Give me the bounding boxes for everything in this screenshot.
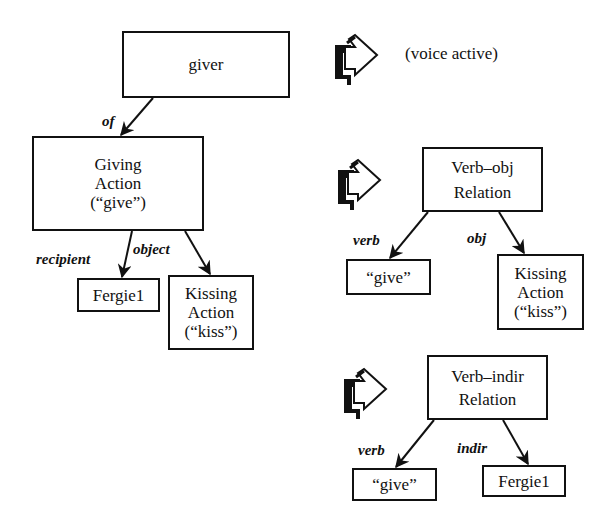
node-kissing-action-line-1: Kissing — [185, 284, 237, 303]
semantic-network-diagram: giver of Giving Action (“give”) recipien… — [0, 0, 613, 524]
hand-pointer-arrow-icon — [342, 367, 390, 421]
node-kissing-obj-line-1: Kissing — [515, 264, 567, 283]
node-fergie1-label: Fergie1 — [93, 286, 145, 305]
node-fergie1-indir: Fergie1 — [482, 465, 566, 497]
node-kissing-obj-line-2: Action — [517, 283, 563, 302]
edge-obj-arrow — [499, 212, 524, 253]
hand-pointer-arrow-icon — [333, 33, 381, 87]
node-giving-action-line-3: (“give”) — [90, 193, 146, 212]
node-verb-obj-line-2: Relation — [454, 183, 512, 202]
node-fergie1: Fergie1 — [77, 278, 160, 312]
node-verb-obj-line-1: Verb–obj — [451, 158, 513, 177]
node-giving-action-line-2: Action — [95, 174, 141, 193]
edge-label-indir: indir — [457, 440, 487, 456]
edge-verb-arrow-2 — [396, 420, 434, 467]
node-give-verb: “give” — [346, 259, 431, 295]
node-fergie1-indir-label: Fergie1 — [498, 472, 550, 491]
node-give-verb-2: “give” — [352, 468, 437, 501]
edge-label-obj: obj — [467, 230, 486, 246]
node-kissing-action-line-3: (“kiss”) — [185, 322, 238, 341]
edge-indir-arrow — [503, 420, 528, 464]
node-give-verb-2-label: “give” — [372, 475, 416, 494]
node-kissing-action-obj: Kissing Action (“kiss”) — [497, 254, 584, 330]
hand-pointer-arrow-icon — [336, 158, 384, 212]
node-verb-indir-relation: Verb–indir Relation — [427, 355, 548, 420]
edge-label-verb-2: verb — [358, 442, 385, 458]
voice-active-label: (voice active) — [405, 44, 498, 63]
node-give-verb-label: “give” — [366, 268, 410, 287]
edge-recipient-arrow — [122, 231, 132, 277]
node-giving-action-line-1: Giving — [94, 155, 141, 174]
node-verb-obj-relation: Verb–obj Relation — [422, 147, 543, 212]
node-kissing-action: Kissing Action (“kiss”) — [168, 275, 254, 350]
edge-label-recipient: recipient — [36, 251, 90, 267]
edge-label-of: of — [102, 113, 115, 129]
node-kissing-obj-line-3: (“kiss”) — [514, 302, 567, 321]
edge-label-verb: verb — [353, 232, 380, 248]
node-giver: giver — [122, 31, 290, 98]
node-giving-action: Giving Action (“give”) — [32, 136, 204, 231]
node-verb-indir-line-1: Verb–indir — [451, 367, 524, 386]
node-kissing-action-line-2: Action — [188, 303, 234, 322]
edge-label-object: object — [133, 241, 170, 257]
node-giver-label: giver — [189, 55, 224, 74]
edge-object-arrow — [185, 231, 210, 274]
node-verb-indir-line-2: Relation — [459, 390, 517, 409]
edge-of-arrow — [121, 98, 153, 135]
edge-verb-arrow — [390, 212, 428, 258]
